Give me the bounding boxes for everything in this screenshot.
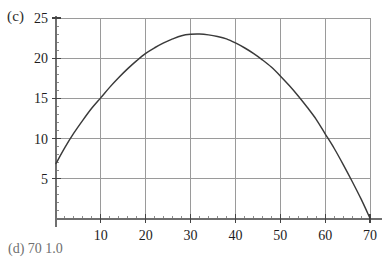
grid-lines [56, 18, 370, 219]
x-tick-label: 50 [273, 228, 287, 243]
next-panel-label: (d) 70 1.0 [8, 241, 63, 257]
y-tick-label: 25 [34, 11, 48, 26]
x-tick-label: 20 [139, 228, 153, 243]
x-tick-label: 60 [318, 228, 332, 243]
x-tick-label: 70 [363, 228, 377, 243]
major-tick-marks [52, 18, 370, 223]
chart-axes [56, 16, 382, 227]
x-tick-label: 10 [94, 228, 108, 243]
series-line-curve [56, 34, 370, 218]
y-tick-label: 5 [41, 172, 48, 187]
minor-tick-marks [56, 18, 370, 219]
y-tick-label: 15 [34, 91, 48, 106]
x-tick-label: 40 [228, 228, 242, 243]
data-series-curve [56, 34, 370, 218]
x-tick-label: 30 [184, 228, 198, 243]
y-tick-label: 10 [34, 132, 48, 147]
y-tick-label: 20 [34, 51, 48, 66]
